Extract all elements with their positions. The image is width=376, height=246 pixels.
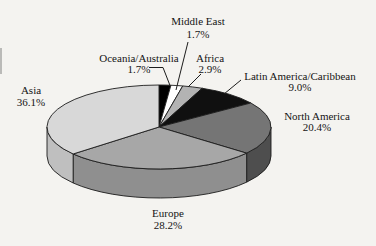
label-pct-europe: 28.2% [154, 219, 182, 231]
label-pct-oceania-australia: 1.7% [128, 63, 151, 75]
leader-line-oceania-australia [149, 68, 170, 86]
label-pct-africa: 2.9% [199, 63, 222, 75]
leader-line-africa [188, 74, 201, 87]
label-latin-america-caribbean: Latin America/Caribbean [244, 70, 356, 82]
label-asia: Asia [21, 84, 41, 96]
label-pct-asia: 36.1% [17, 96, 45, 108]
label-middle-east: Middle East [171, 15, 224, 27]
leader-line-latin-america-caribbean [224, 80, 241, 94]
pie-chart-svg: Oceania/Australia1.7%Middle East1.7%Afri… [0, 0, 376, 246]
label-pct-north-america: 20.4% [303, 121, 331, 133]
leader-line-middle-east [176, 42, 188, 90]
label-pct-latin-america-caribbean: 9.0% [289, 81, 312, 93]
label-north-america: North America [284, 110, 350, 122]
label-europe: Europe [152, 207, 184, 219]
label-pct-middle-east: 1.7% [187, 28, 210, 40]
world-regions-pie-chart: Oceania/Australia1.7%Middle East1.7%Afri… [0, 0, 376, 246]
